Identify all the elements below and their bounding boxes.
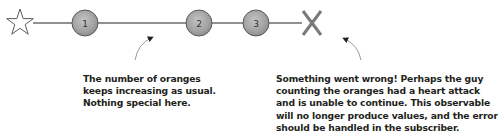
marble-label: 1 (82, 19, 88, 29)
arrow-left-annotation (135, 38, 151, 60)
marble-3: 3 (243, 10, 269, 36)
annotation-line: Nothing special here. (83, 97, 216, 109)
annotation-line: keeps increasing as usual. (83, 85, 216, 97)
arrow-right-annotation (345, 39, 361, 60)
annotation-line: will no longer produce values, and the e… (276, 110, 498, 122)
annotation-error: Something went wrong! Perhaps the guy co… (276, 73, 498, 134)
marble-label: 3 (253, 19, 259, 29)
error-x-icon (303, 11, 321, 35)
marble-label: 2 (196, 19, 202, 29)
marble-2: 2 (186, 10, 212, 36)
annotation-line: and is unable to continue. This observab… (276, 97, 498, 109)
annotation-line: counting the oranges had a heart attack (276, 85, 498, 97)
annotation-line: The number of oranges (83, 73, 216, 85)
marble-1: 1 (72, 10, 98, 36)
annotation-line: should be handled in the subscriber. (276, 122, 498, 134)
star-icon (7, 9, 34, 34)
annotation-line: Something went wrong! Perhaps the guy (276, 73, 498, 85)
annotation-normal-emission: The number of oranges keeps increasing a… (83, 73, 216, 110)
